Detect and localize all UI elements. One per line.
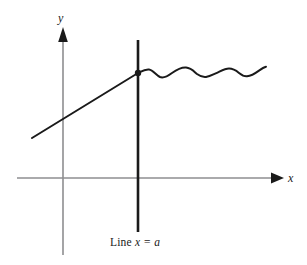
caption-prefix: Line bbox=[110, 236, 135, 248]
wavy-curve-segment bbox=[138, 67, 266, 78]
x-axis-label: x bbox=[287, 171, 294, 185]
x-axis-arrowhead bbox=[271, 173, 284, 184]
math-diagram: x y bbox=[0, 0, 307, 265]
figure-canvas: x y Line x = a bbox=[0, 0, 307, 265]
intersection-point-dot bbox=[135, 70, 141, 76]
line-equation-caption: Line x = a bbox=[110, 236, 160, 248]
y-axis-arrowhead bbox=[58, 27, 68, 42]
y-axis-label: y bbox=[57, 11, 64, 25]
caption-equation: x = a bbox=[135, 236, 160, 248]
straight-line-segment bbox=[32, 73, 138, 138]
